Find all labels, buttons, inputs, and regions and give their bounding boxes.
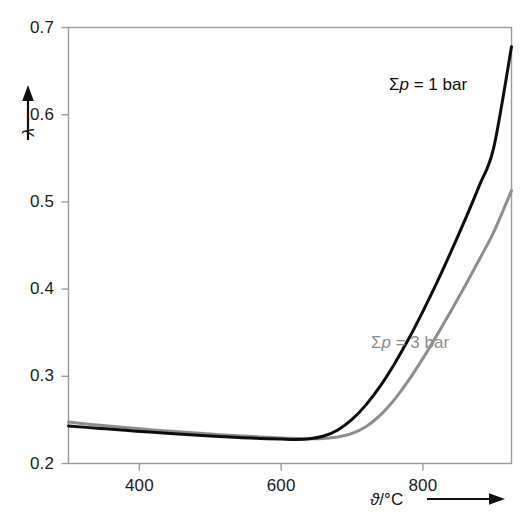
y-tick-label: 0.2 (0, 454, 54, 474)
data-series-group (69, 47, 512, 440)
series-label-sigma-1: Σ (371, 333, 382, 352)
x-axis-title-unit: /°C (379, 490, 403, 509)
series-line-1 (69, 191, 512, 439)
y-tick-label: 0.3 (0, 366, 54, 386)
y-tick-label: 0.4 (0, 279, 54, 299)
y-tick-label: 0.5 (0, 192, 54, 212)
x-axis-tick-marks (139, 464, 423, 471)
series-label-sigma-0: Σ (389, 75, 400, 94)
x-tick-label: 600 (267, 476, 296, 496)
x-tick-label: 400 (125, 476, 154, 496)
series-label-p-1: p (382, 333, 391, 352)
y-axis-title: λ (14, 96, 44, 160)
x-axis-title: ϑ/°C (370, 490, 403, 510)
x-tick-label: 800 (409, 476, 438, 496)
series-label-1-bar: Σp = 1 bar (389, 75, 467, 95)
series-label-p-0: p (400, 75, 409, 94)
y-tick-label: 0.7 (0, 18, 54, 38)
series-label-3-bar: Σp = 3 bar (371, 333, 449, 353)
y-axis-tick-marks (62, 28, 69, 464)
series-label-rest-1: = 3 bar (391, 333, 449, 352)
series-line-0 (69, 47, 512, 440)
y-axis-title-text: λ (19, 117, 39, 147)
x-axis-arrow-icon (427, 493, 505, 505)
series-label-rest-0: = 1 bar (409, 75, 467, 94)
chart-figure: 0.20.30.40.50.60.7 400600800 λ ϑ/°C Σp =… (0, 0, 528, 523)
x-axis-title-symbol: ϑ (370, 490, 379, 509)
